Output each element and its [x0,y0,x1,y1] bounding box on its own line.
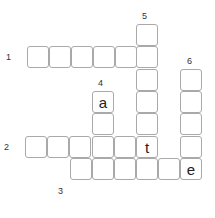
crossword-cell[interactable] [180,69,202,91]
clue-number-across: 2 [4,142,9,152]
crossword-cell[interactable] [93,46,115,68]
crossword-cell[interactable] [69,136,91,158]
crossword-cell[interactable] [25,136,47,158]
crossword-cell[interactable] [114,158,136,180]
crossword-cell[interactable] [115,46,137,68]
crossword-cell[interactable] [92,158,114,180]
crossword-cell[interactable] [27,46,49,68]
crossword-cell[interactable] [136,113,158,135]
crossword-cell[interactable] [136,24,158,46]
crossword-cell[interactable] [92,136,114,158]
crossword-cell[interactable] [136,91,158,113]
crossword-cell[interactable]: t [136,136,158,158]
crossword-cell[interactable] [136,158,158,180]
crossword-cell[interactable] [180,91,202,113]
clue-number-down: 5 [142,11,147,21]
crossword-cell[interactable] [180,113,202,135]
crossword-cell[interactable] [47,136,69,158]
clue-number-across: 1 [6,52,11,62]
crossword-cell[interactable] [71,46,93,68]
crossword-cell[interactable]: a [92,91,114,113]
crossword-cell[interactable] [136,69,158,91]
crossword-cell[interactable] [70,158,92,180]
crossword-cell[interactable] [49,46,71,68]
crossword-cell[interactable]: e [180,158,202,180]
crossword-cell[interactable] [92,113,114,135]
clue-number-across: 3 [58,186,63,196]
crossword-cell[interactable] [180,136,202,158]
clue-number-down: 4 [98,78,103,88]
crossword-cell[interactable] [114,136,136,158]
clue-number-down: 6 [187,56,192,66]
crossword-cell[interactable] [158,158,180,180]
crossword-cell[interactable] [136,46,158,68]
